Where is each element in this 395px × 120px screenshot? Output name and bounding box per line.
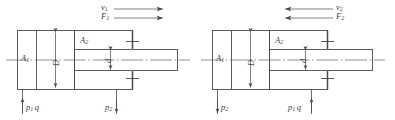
left-motion-arrows [114, 9, 163, 18]
left-area-rod-label: A2 [80, 36, 88, 45]
left-area-cap-label: A1 [21, 54, 29, 63]
figure-canvas: v1 F1 A1 D A2 d p1q p2 v2 F2 A1 D A2 d p… [0, 0, 395, 120]
right-inlet-label: p1q [288, 103, 301, 112]
left-outlet-label: p2 [105, 103, 112, 112]
right-diagram [201, 9, 385, 114]
right-motion-arrows [285, 9, 333, 18]
left-bore-label: D [52, 60, 61, 66]
right-area-cap-label: A1 [216, 54, 224, 63]
right-bore-label: D [247, 60, 256, 66]
left-rod-label: d [104, 59, 113, 63]
right-force-label: F2 [336, 12, 344, 21]
right-rod-label: d [299, 59, 308, 63]
left-diagram [6, 9, 190, 114]
right-area-rod-label: A2 [275, 36, 283, 45]
right-outlet-label: p2 [221, 103, 228, 112]
left-force-label: F1 [101, 12, 109, 21]
left-inlet-label: p1q [26, 103, 39, 112]
